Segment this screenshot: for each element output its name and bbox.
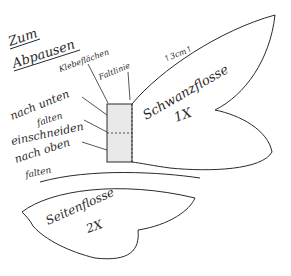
- title-line1: Zum: [5, 25, 39, 49]
- label-faltlinie: Faltlinie: [96, 61, 131, 82]
- tail-fin-count: 1X: [172, 104, 194, 124]
- drawing-canvas: Zum Abpausen Klebeflächen Faltlinie nach…: [0, 0, 291, 276]
- side-fin-count: 2X: [83, 217, 104, 236]
- tail-fin-measure: ↑3cm↑: [162, 44, 194, 64]
- fin-template-drawing: Zum Abpausen Klebeflächen Faltlinie nach…: [0, 0, 291, 276]
- tail-fin-lower-curve: [40, 173, 200, 183]
- tail-fin-outline: [132, 15, 275, 170]
- label-falten-2: falten: [23, 165, 52, 181]
